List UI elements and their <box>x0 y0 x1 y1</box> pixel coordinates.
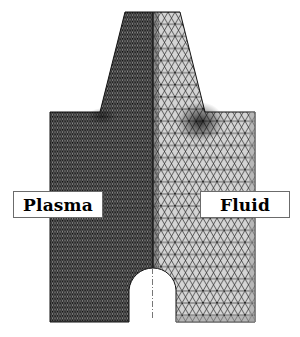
fluid-label: Fluid <box>200 191 290 218</box>
interface-refinement <box>153 12 159 268</box>
plasma-region <box>50 12 153 322</box>
shoulder-refinement <box>176 102 224 142</box>
fluid-region <box>153 12 255 322</box>
fluid-label-text: Fluid <box>220 195 270 215</box>
left-shoulder-refinement <box>88 108 116 124</box>
plasma-label: Plasma <box>13 191 103 218</box>
mesh-geometry <box>0 0 300 337</box>
bottom-boundary-layer <box>176 316 255 322</box>
plasma-label-text: Plasma <box>23 195 93 215</box>
mesh-diagram: Plasma Fluid <box>0 0 300 337</box>
